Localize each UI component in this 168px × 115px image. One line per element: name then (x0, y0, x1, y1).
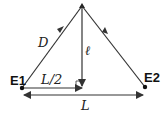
d-label: D (37, 35, 49, 50)
right-angle-icon (76, 81, 82, 88)
half-l-label: L/2 (40, 72, 62, 87)
line-right (82, 6, 145, 87)
e2-dot (143, 85, 147, 89)
e2-label: E2 (144, 70, 160, 85)
diagram-canvas: E1 E2 D ℓ L/2 L (0, 0, 168, 115)
ell-label: ℓ (85, 43, 91, 58)
l-label: L (80, 98, 90, 113)
e1-label: E1 (10, 73, 26, 88)
